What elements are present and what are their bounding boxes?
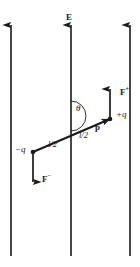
charge-positive-label: +q bbox=[116, 110, 127, 119]
force-negative-label-sup: − bbox=[48, 173, 51, 179]
dipole-arm-label-right: l/2 bbox=[79, 131, 88, 140]
dipole-arm-label-left: l/2 bbox=[48, 140, 57, 149]
field-label-E: E bbox=[66, 13, 72, 22]
charge-negative-label: −q bbox=[15, 145, 26, 154]
dipole-field-figure: E F+ +q θ p l/2 l/2 −q F− bbox=[0, 0, 140, 267]
charge-negative-dot bbox=[31, 150, 36, 155]
force-negative-label: F− bbox=[42, 173, 51, 184]
field-lines bbox=[11, 25, 130, 256]
force-positive-label: F+ bbox=[120, 86, 129, 97]
theta-angle-label: θ bbox=[76, 104, 80, 113]
force-positive-label-sup: + bbox=[126, 86, 129, 92]
dipole-moment-label: p bbox=[95, 123, 100, 132]
charge-positive-dot bbox=[108, 117, 113, 122]
figure-canvas bbox=[0, 0, 140, 267]
